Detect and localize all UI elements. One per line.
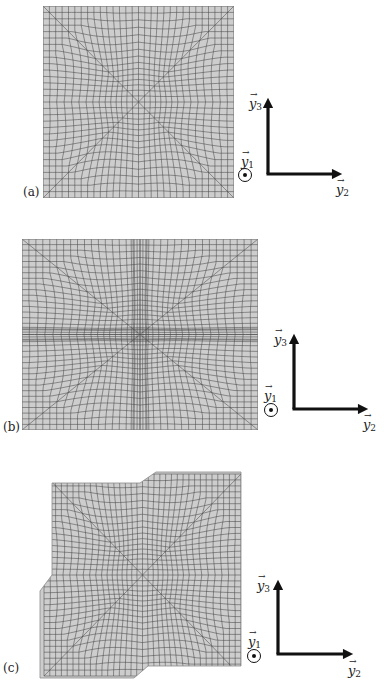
axis-label-y3-b: →y3 <box>274 333 287 348</box>
axis-label-y2-b: →y2 <box>363 418 376 433</box>
out-of-plane-icon-a <box>238 168 252 182</box>
axis-label-y2-c: →y2 <box>348 664 361 679</box>
out-of-plane-icon-c <box>247 649 261 663</box>
out-of-plane-icon-b <box>264 403 278 417</box>
panel-label-c: (c) <box>3 661 19 675</box>
axis-label-y2-a: →y2 <box>336 183 349 198</box>
axis-label-y1-b: →y1 <box>264 389 277 404</box>
axis-label-y1-c: →y1 <box>248 635 261 650</box>
axis-label-y3-c: →y3 <box>257 579 270 594</box>
axis-label-y3-a: →y3 <box>249 97 262 112</box>
mesh-image-c <box>0 0 389 681</box>
